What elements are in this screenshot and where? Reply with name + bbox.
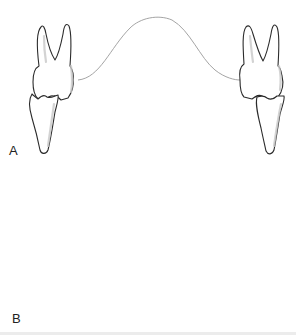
panel-label-b: B — [12, 311, 21, 326]
upper-tooth-right-a — [240, 25, 283, 99]
arch-curve-a — [78, 17, 240, 80]
panel-a — [29, 17, 284, 154]
lower-tooth-left-a — [29, 94, 58, 153]
upper-tooth-left-a — [33, 24, 73, 101]
lower-tooth-right-a — [256, 96, 284, 154]
dental-occlusion-diagram — [0, 0, 296, 335]
panel-label-a: A — [9, 143, 18, 158]
